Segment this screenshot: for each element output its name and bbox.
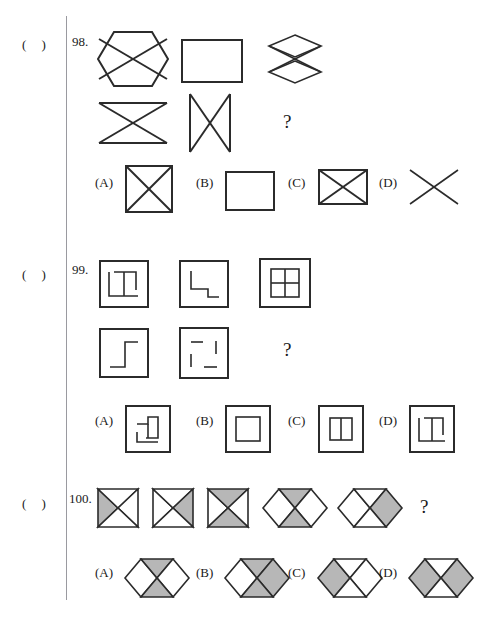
figure-99-square-with-broken-dashes xyxy=(178,326,230,380)
answer-placeholder-100: ? xyxy=(420,497,428,516)
option-label-98-b[interactable]: (B) xyxy=(196,176,213,189)
figure-100-option-c-hexagon-x-left-shaded[interactable] xyxy=(317,558,383,598)
answer-bracket-100[interactable]: ( ) xyxy=(22,497,62,510)
figure-100-option-b-hexagon-x-top-bottom-right-shaded[interactable] xyxy=(224,558,290,598)
figure-99-square-with-step-glyph xyxy=(178,259,230,309)
figure-98-rectangle-plain xyxy=(180,38,244,84)
answer-bracket-99[interactable]: ( ) xyxy=(22,268,62,281)
figure-98-horizontal-bowtie xyxy=(96,100,170,146)
figure-98-option-d-bare-x-cross[interactable] xyxy=(408,168,460,206)
figure-98-vertical-bowtie xyxy=(186,92,234,154)
answer-placeholder-98: ? xyxy=(283,112,291,131)
figure-98-option-a-square-with-x[interactable] xyxy=(124,164,174,214)
figure-99-option-c-square-with-two-panes[interactable] xyxy=(317,404,365,454)
figure-98-double-diamond-bowtie xyxy=(267,32,323,86)
figure-100-hexagon-x-top-bottom-shaded xyxy=(262,488,328,528)
question-number-98: 98. xyxy=(72,35,88,48)
answer-placeholder-99: ? xyxy=(283,340,291,359)
question-number-100: 100. xyxy=(69,492,92,505)
worksheet-page: ( ) 98. xyxy=(0,0,493,629)
figure-99-option-a-square-with-pinwheel-glyph[interactable] xyxy=(124,404,172,454)
figure-100-option-d-hexagon-x-left-right-shaded[interactable] xyxy=(408,558,474,598)
vertical-divider-rule xyxy=(66,16,67,600)
option-label-98-a[interactable]: (A) xyxy=(95,176,113,189)
figure-100-square-x-top-bottom-shaded xyxy=(207,488,249,528)
figure-100-square-x-left-shaded xyxy=(97,488,139,528)
option-label-100-c[interactable]: (C) xyxy=(288,566,305,579)
figure-100-hexagon-x-right-shaded xyxy=(337,488,403,528)
figure-99-option-d-square-with-t-glyph[interactable] xyxy=(408,404,456,454)
figure-98-hexagon-with-x xyxy=(96,30,170,88)
option-label-98-c[interactable]: (C) xyxy=(288,176,305,189)
option-label-99-d[interactable]: (D) xyxy=(379,414,397,427)
option-label-100-b[interactable]: (B) xyxy=(196,566,213,579)
figure-100-square-x-right-shaded xyxy=(152,488,194,528)
figure-99-square-with-z-step-glyph xyxy=(98,327,150,379)
figure-100-option-a-hexagon-x-top-bottom-shaded[interactable] xyxy=(124,558,190,598)
option-label-99-c[interactable]: (C) xyxy=(288,414,305,427)
figure-98-option-b-rectangle-plain[interactable] xyxy=(224,170,276,212)
option-label-98-d[interactable]: (D) xyxy=(379,176,397,189)
figure-99-square-with-t-glyph xyxy=(98,259,150,309)
figure-99-option-b-square-with-inner-square[interactable] xyxy=(224,404,272,454)
option-label-99-a[interactable]: (A) xyxy=(95,414,113,427)
option-label-100-a[interactable]: (A) xyxy=(95,566,113,579)
option-label-100-d[interactable]: (D) xyxy=(379,566,397,579)
question-number-99: 99. xyxy=(72,263,88,276)
answer-bracket-98[interactable]: ( ) xyxy=(22,38,62,51)
figure-98-option-c-wide-rectangle-with-x[interactable] xyxy=(317,168,369,206)
option-label-99-b[interactable]: (B) xyxy=(196,414,213,427)
figure-99-square-with-grid xyxy=(258,257,312,309)
